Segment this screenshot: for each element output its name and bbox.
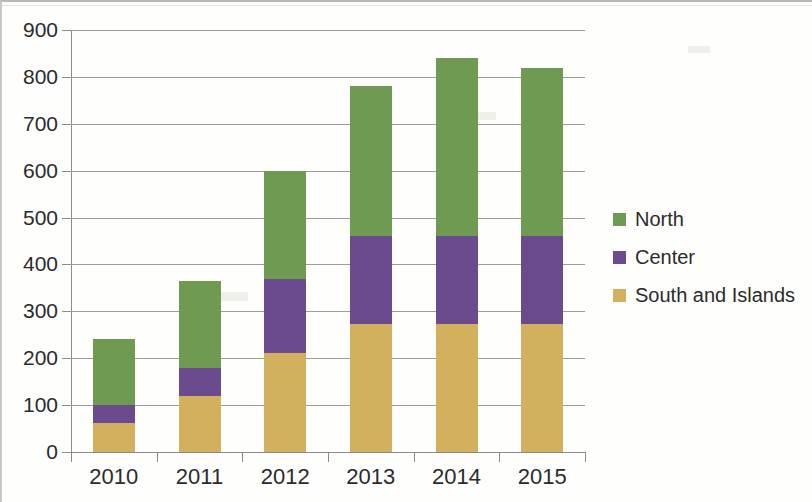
y-axis-tick-100 (62, 405, 71, 406)
y-axis-label-700: 700 (6, 113, 58, 134)
bar-segment-2012-south[interactable] (264, 353, 306, 452)
bar-group-2013[interactable] (350, 30, 392, 452)
y-axis-label-400: 400 (6, 253, 58, 274)
bar-segment-2014-south[interactable] (436, 324, 478, 452)
bar-segment-2011-north[interactable] (179, 281, 221, 368)
legend-label: Center (635, 246, 695, 269)
y-axis-label-100: 100 (6, 394, 58, 415)
x-axis-label-2011: 2011 (157, 466, 243, 488)
bar-segment-2014-north[interactable] (436, 58, 478, 236)
legend-label: North (635, 208, 684, 231)
y-axis-label-0: 0 (6, 441, 58, 462)
y-axis-tick-400 (62, 264, 71, 265)
x-axis-tick-3 (328, 453, 329, 462)
y-axis-label-300: 300 (6, 300, 58, 321)
y-axis-tick-200 (62, 358, 71, 359)
gridline-500 (71, 218, 585, 219)
bar-segment-2010-north[interactable] (93, 339, 135, 405)
x-axis-tick-5 (499, 453, 500, 462)
x-axis-label-2013: 2013 (328, 466, 414, 488)
bar-segment-2015-north[interactable] (521, 68, 563, 237)
y-axis-labels: 0100200300400500600700800900 (0, 0, 58, 502)
y-axis-tick-700 (62, 124, 71, 125)
bar-group-2010[interactable] (93, 30, 135, 452)
bar-group-2015[interactable] (521, 30, 563, 452)
bar-segment-2012-north[interactable] (264, 171, 306, 279)
bar-segment-2015-center[interactable] (521, 236, 563, 324)
legend-swatch-icon (613, 289, 626, 302)
y-axis-label-200: 200 (6, 347, 58, 368)
gridline-400 (71, 264, 585, 265)
y-axis-tick-900 (62, 30, 71, 31)
stacked-bar-chart: 0100200300400500600700800900 NorthCenter… (0, 0, 812, 502)
legend-label: South and Islands (635, 284, 795, 307)
x-axis-tick-2 (242, 453, 243, 462)
legend-swatch-icon (613, 251, 626, 264)
bar-segment-2015-south[interactable] (521, 324, 563, 452)
bar-segment-2011-south[interactable] (179, 396, 221, 452)
bar-group-2011[interactable] (179, 30, 221, 452)
bar-segment-2012-center[interactable] (264, 279, 306, 353)
legend-swatch-icon (613, 213, 626, 226)
chart-legend: NorthCenterSouth and Islands (613, 200, 809, 314)
x-axis-label-2014: 2014 (414, 466, 500, 488)
scan-artifact (688, 46, 710, 53)
x-axis-label-2012: 2012 (242, 466, 328, 488)
bar-segment-2014-center[interactable] (436, 236, 478, 324)
y-axis-tick-600 (62, 171, 71, 172)
gridline-900 (71, 30, 585, 31)
y-axis-label-600: 600 (6, 160, 58, 181)
bar-segment-2013-center[interactable] (350, 236, 392, 324)
bar-group-2014[interactable] (436, 30, 478, 452)
y-axis-tick-300 (62, 311, 71, 312)
legend-item-south-and-islands[interactable]: South and Islands (613, 276, 809, 314)
x-axis-tick-end (585, 453, 586, 462)
x-axis-tick-0 (71, 453, 72, 462)
y-axis-label-500: 500 (6, 207, 58, 228)
plot-area (71, 30, 585, 452)
gridline-600 (71, 171, 585, 172)
x-axis-tick-4 (414, 453, 415, 462)
x-axis-label-2010: 2010 (71, 466, 157, 488)
bar-segment-2013-south[interactable] (350, 324, 392, 452)
legend-item-center[interactable]: Center (613, 238, 809, 276)
gridline-200 (71, 358, 585, 359)
gridline-300 (71, 311, 585, 312)
bar-segment-2010-south[interactable] (93, 423, 135, 452)
gridline-100 (71, 405, 585, 406)
y-axis-tick-0 (62, 452, 71, 453)
gridline-800 (71, 77, 585, 78)
legend-item-north[interactable]: North (613, 200, 809, 238)
x-axis-tick-1 (157, 453, 158, 462)
bar-segment-2010-center[interactable] (93, 405, 135, 423)
gridline-700 (71, 124, 585, 125)
bar-segment-2011-center[interactable] (179, 368, 221, 396)
bar-segment-2013-north[interactable] (350, 86, 392, 236)
y-axis-tick-800 (62, 77, 71, 78)
y-axis-label-800: 800 (6, 66, 58, 87)
y-axis-label-900: 900 (6, 19, 58, 40)
y-axis-tick-500 (62, 218, 71, 219)
x-axis-label-2015: 2015 (499, 466, 585, 488)
bar-group-2012[interactable] (264, 30, 306, 452)
